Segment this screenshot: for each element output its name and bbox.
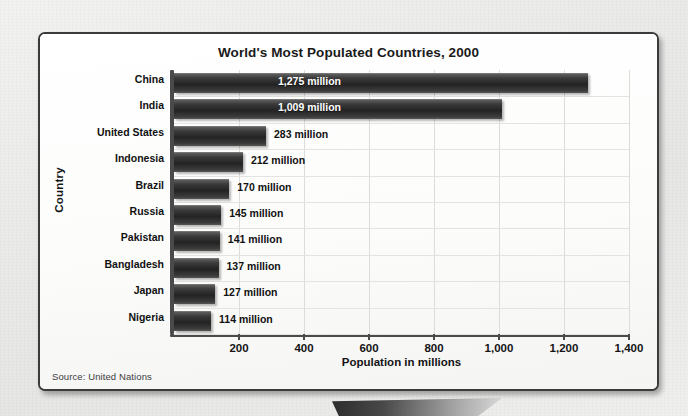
bar-category-label: Pakistan [44,231,164,243]
plot-area: 2004006008001,0001,2001,400 China1,275 m… [174,70,629,334]
bar-category-label: Brazil [44,179,164,191]
x-tick-label: 1,200 [536,342,592,354]
gridline-horizontal [174,334,629,335]
bar-shape[interactable] [174,179,229,199]
bar-shape[interactable] [174,311,211,331]
x-tick-label: 600 [341,342,397,354]
bar-row[interactable]: China1,275 million [174,70,629,96]
bar-category-label: Bangladesh [44,258,164,270]
source-note: Source: United Nations [52,371,152,382]
x-tick-label: 400 [276,342,332,354]
bar-value-label: 114 million [219,313,273,325]
bar-value-label: 1,009 million [278,101,341,113]
gridline-vertical [629,70,630,334]
x-tick-label: 1,000 [471,342,527,354]
bar-shape[interactable] [174,205,221,225]
bar-shape[interactable] [174,73,588,93]
bar-category-label: Japan [44,284,164,296]
bar-value-label: 127 million [223,286,277,298]
tick-mark [238,334,240,340]
bar-row[interactable]: Russia145 million [174,202,629,228]
bar-category-label: Nigeria [44,311,164,323]
tick-mark [303,334,305,340]
bar-row[interactable]: United States283 million [174,123,629,149]
bar-row[interactable]: Nigeria114 million [174,308,629,334]
bar-value-label: 283 million [274,128,328,140]
bar-value-label: 137 million [227,260,281,272]
bar-shape[interactable] [174,231,220,251]
bar-row[interactable]: Indonesia212 million [174,149,629,175]
bar-shape[interactable] [174,284,215,304]
bar-row[interactable]: Pakistan141 million [174,228,629,254]
bar-row[interactable]: Brazil170 million [174,176,629,202]
bar-value-label: 212 million [251,154,305,166]
tick-mark [498,334,500,340]
bar-category-label: China [44,73,164,85]
x-axis-title: Population in millions [174,356,629,368]
tick-mark [368,334,370,340]
bar-category-label: India [44,99,164,111]
chart-title: World's Most Populated Countries, 2000 [40,45,657,60]
bar-value-label: 145 million [229,207,283,219]
bar-shape[interactable] [174,258,219,278]
x-tick-label: 200 [211,342,267,354]
x-tick-label: 1,400 [601,342,657,354]
bar-shape[interactable] [174,152,243,172]
bar-category-label: Russia [44,205,164,217]
bar-value-label: 170 million [237,181,291,193]
tick-mark [563,334,565,340]
bar-value-label: 141 million [228,233,282,245]
bar-value-label: 1,275 million [278,75,341,87]
bar-category-label: Indonesia [44,152,164,164]
bar-row[interactable]: Japan127 million [174,281,629,307]
tick-mark [628,334,630,340]
bar-row[interactable]: India1,009 million [174,96,629,122]
x-tick-label: 800 [406,342,462,354]
tick-mark [433,334,435,340]
bar-row[interactable]: Bangladesh137 million [174,255,629,281]
bar-shape[interactable] [174,126,266,146]
bar-category-label: United States [44,126,164,138]
chart-panel: World's Most Populated Countries, 2000 C… [38,32,659,391]
